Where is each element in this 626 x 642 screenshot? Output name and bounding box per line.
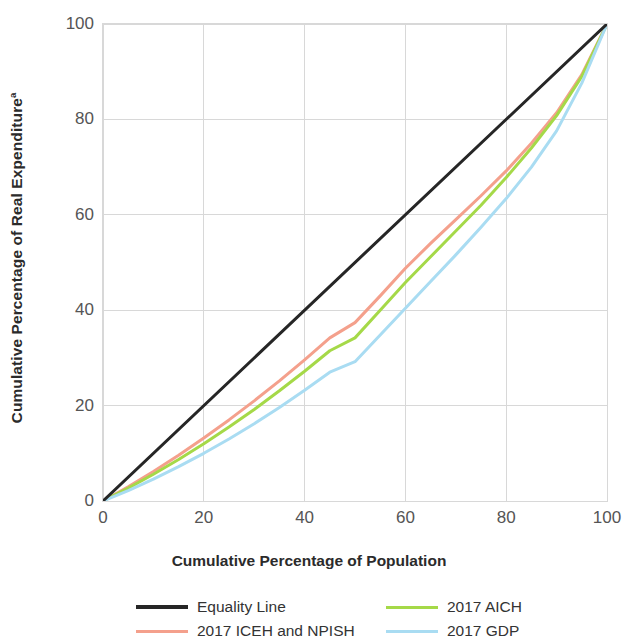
y-tick-label: 20 bbox=[48, 396, 94, 416]
y-axis-title: Cumulative Percentage of Real Expenditur… bbox=[8, 92, 26, 423]
legend-item-aich: 2017 AICH bbox=[386, 596, 522, 618]
x-tick-label: 80 bbox=[476, 508, 536, 528]
y-tick-label: 100 bbox=[48, 14, 94, 34]
legend-item-gdp: 2017 GDP bbox=[386, 620, 519, 642]
y-tick-label: 60 bbox=[48, 205, 94, 225]
series-lines bbox=[103, 24, 607, 501]
legend-item-equality-line: Equality Line bbox=[136, 596, 286, 618]
legend-swatch-icon bbox=[386, 606, 438, 609]
x-tick-label: 100 bbox=[577, 508, 626, 528]
y-axis-title-container: Cumulative Percentage of Real Expenditur… bbox=[0, 0, 34, 515]
y-tick-label: 40 bbox=[48, 300, 94, 320]
legend-label: 2017 ICEH and NPISH bbox=[197, 622, 355, 640]
y-axis-title-text: Cumulative Percentage of Real Expenditur… bbox=[8, 98, 25, 423]
x-tick-label: 0 bbox=[73, 508, 133, 528]
y-tick-label: 80 bbox=[48, 109, 94, 129]
plot-area bbox=[102, 23, 608, 502]
x-axis-title: Cumulative Percentage of Population bbox=[0, 552, 618, 570]
chart-canvas bbox=[103, 24, 607, 501]
x-tick-label: 20 bbox=[174, 508, 234, 528]
legend-swatch-icon bbox=[136, 630, 188, 633]
legend-label: 2017 GDP bbox=[447, 622, 519, 640]
legend-label: Equality Line bbox=[197, 598, 286, 616]
x-axis-tick-labels: 020406080100 bbox=[0, 508, 618, 538]
legend-label: 2017 AICH bbox=[447, 598, 522, 616]
legend-swatch-icon bbox=[386, 630, 438, 633]
series-line bbox=[103, 24, 607, 501]
legend-swatch-icon bbox=[136, 605, 188, 609]
y-axis-title-superscript: a bbox=[7, 92, 18, 97]
legend-item-iceh-npish: 2017 ICEH and NPISH bbox=[136, 620, 355, 642]
y-axis-tick-labels: 020406080100 bbox=[44, 0, 94, 642]
chart-legend: Equality Line 2017 ICEH and NPISH 2017 A… bbox=[0, 596, 618, 642]
x-tick-label: 40 bbox=[275, 508, 335, 528]
x-tick-label: 60 bbox=[375, 508, 435, 528]
